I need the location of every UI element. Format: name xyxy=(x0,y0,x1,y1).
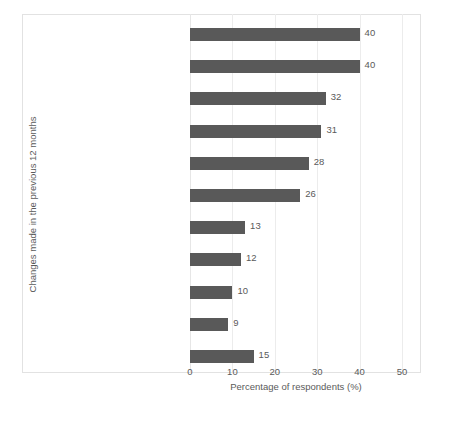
x-tick-label: 30 xyxy=(297,366,337,377)
x-tick-label: 20 xyxy=(255,366,295,377)
bar-row[interactable]: 9Started buying sustainably sourced fish xyxy=(190,318,402,331)
plot-area: 40Eaten less processed food40Started min… xyxy=(190,14,402,373)
bar-value-label: 32 xyxy=(331,91,342,102)
bar-row[interactable]: 31Started buying foods withminimal or no… xyxy=(190,125,402,138)
bar[interactable] xyxy=(190,28,360,41)
bar-value-label: 13 xyxy=(250,220,261,231)
bar[interactable] xyxy=(190,221,245,234)
bar-chart: Changes made in the previous 12 months 4… xyxy=(0,0,450,422)
bar-row[interactable]: 13Eaten/drunk less dairy xyxy=(190,221,402,234)
bar-value-label: 15 xyxy=(259,349,270,360)
bar-value-label: 31 xyxy=(326,124,337,135)
bar[interactable] xyxy=(190,92,326,105)
x-axis-title: Percentage of respondents (%) xyxy=(190,381,402,392)
x-tick-label: 40 xyxy=(340,366,380,377)
bar[interactable] xyxy=(190,253,241,266)
bar-value-label: 26 xyxy=(305,188,316,199)
bar-row[interactable]: 26Started buying locally producedfood or… xyxy=(190,189,402,202)
bar-row[interactable]: 40Started minimising food waste xyxy=(190,60,402,73)
y-axis-title: Changes made in the previous 12 months xyxy=(27,90,38,320)
bar-row[interactable]: 32Started eating more fruitand/or vegeta… xyxy=(190,92,402,105)
bar[interactable] xyxy=(190,350,254,363)
bar-value-label: 40 xyxy=(365,59,376,70)
bar-value-label: 40 xyxy=(365,27,376,38)
bar[interactable] xyxy=(190,157,309,170)
bar-value-label: 12 xyxy=(246,252,257,263)
bar-value-label: 10 xyxy=(237,285,248,296)
x-tick-label: 0 xyxy=(170,366,210,377)
bar-row[interactable]: 12Started growing fruitand/or vegetables xyxy=(190,253,402,266)
bar-value-label: 9 xyxy=(233,317,238,328)
bar[interactable] xyxy=(190,125,321,138)
bar-row[interactable]: 10Started buying fair trade products xyxy=(190,286,402,299)
x-tick-label: 50 xyxy=(382,366,422,377)
bar[interactable] xyxy=(190,318,228,331)
bar-row[interactable]: 15None of these xyxy=(190,350,402,363)
bar[interactable] xyxy=(190,189,300,202)
x-tick-label: 10 xyxy=(212,366,252,377)
bar-row[interactable]: 40Eaten less processed food xyxy=(190,28,402,41)
bar[interactable] xyxy=(190,286,232,299)
bar-row[interactable]: 28Eaten less meat, poultry or fish xyxy=(190,157,402,170)
bar[interactable] xyxy=(190,60,360,73)
bar-value-label: 28 xyxy=(314,156,325,167)
gridline-50 xyxy=(402,14,403,373)
